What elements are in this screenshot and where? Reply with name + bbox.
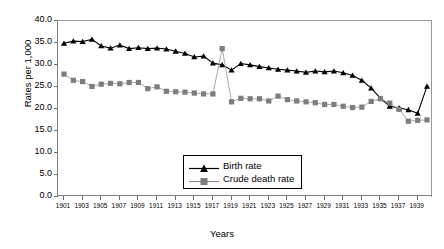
x-tick-mark xyxy=(193,196,194,200)
x-tick-mark xyxy=(361,196,362,200)
x-axis-label: Years xyxy=(0,228,444,239)
chart-figure: Rates per 1,000 0.05.010.015.020.025.030… xyxy=(0,0,444,249)
x-tick-mark xyxy=(63,196,64,200)
x-tick-mark xyxy=(212,196,213,200)
x-tick-mark xyxy=(137,196,138,200)
series-crude-death-rate xyxy=(61,46,429,124)
x-tick-mark xyxy=(324,196,325,200)
x-tick-mark xyxy=(398,196,399,200)
x-tick-mark xyxy=(156,196,157,200)
y-tick-label: 0.0 xyxy=(18,190,52,200)
x-tick-mark xyxy=(119,196,120,200)
x-tick-mark xyxy=(100,196,101,200)
x-tick-mark xyxy=(231,196,232,200)
x-tick-mark xyxy=(342,196,343,200)
y-tick-mark xyxy=(54,196,58,197)
x-tick-label: 1939 xyxy=(402,202,432,209)
y-tick-label: 10.0 xyxy=(18,146,52,156)
x-tick-mark xyxy=(175,196,176,200)
x-tick-mark xyxy=(417,196,418,200)
x-tick-mark xyxy=(286,196,287,200)
y-tick-label: 15.0 xyxy=(18,124,52,134)
legend-item-birth-rate: Birth rate xyxy=(189,159,294,172)
series-birth-rate xyxy=(61,36,430,115)
x-tick-mark xyxy=(249,196,250,200)
x-tick-mark xyxy=(82,196,83,200)
x-tick-mark xyxy=(305,196,306,200)
legend-label-birth-rate: Birth rate xyxy=(223,160,262,171)
y-tick-label: 20.0 xyxy=(18,102,52,112)
y-tick-label: 5.0 xyxy=(18,168,52,178)
x-tick-mark xyxy=(268,196,269,200)
y-tick-label: 40.0 xyxy=(18,14,52,24)
legend-item-crude-death-rate: Crude death rate xyxy=(189,172,294,185)
legend-swatch-triangle-icon xyxy=(189,160,219,171)
legend-label-crude-death-rate: Crude death rate xyxy=(223,173,294,184)
y-tick-label: 30.0 xyxy=(18,58,52,68)
y-tick-label: 25.0 xyxy=(18,80,52,90)
chart-legend: Birth rate Crude death rate xyxy=(183,155,302,189)
y-tick-label: 35.0 xyxy=(18,36,52,46)
x-tick-mark xyxy=(379,196,380,200)
legend-swatch-square-icon xyxy=(189,173,219,184)
